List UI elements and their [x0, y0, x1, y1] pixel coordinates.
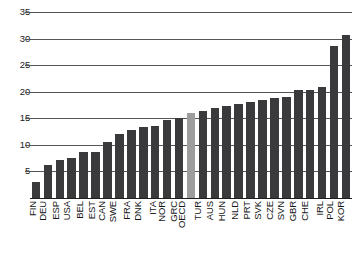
bar-esp	[56, 160, 65, 198]
bar-ita	[151, 126, 160, 198]
x-tick-label-esp: ESP	[50, 201, 60, 220]
bar-fin	[32, 182, 41, 198]
x-tick-label-hun: HUN	[217, 201, 227, 221]
x-tick-label-oecd: OECD	[177, 201, 187, 228]
x-tick-label-can: CAN	[98, 201, 108, 221]
bar-gbr	[294, 90, 303, 198]
bar-slot	[233, 12, 245, 198]
bar-can	[103, 142, 112, 198]
x-tick-label-gbr: GBR	[288, 201, 298, 221]
y-axis: 5101520253035	[0, 12, 30, 198]
bar-dnk	[139, 127, 148, 198]
x-tick-label-bel: BEL	[75, 201, 85, 219]
x-axis-labels: FINDEUESPUSABELESTCANSWEFRADNKITANORGRCO…	[30, 199, 352, 271]
x-tick-label-nld: NLD	[229, 201, 239, 220]
bar-chart-figure: 5101520253035 FINDEUESPUSABELESTCANSWEFR…	[0, 0, 360, 273]
bar-oecd	[187, 113, 196, 198]
bar-slot	[221, 12, 233, 198]
bar-cze	[270, 98, 279, 198]
x-tick-label-swe: SWE	[109, 201, 119, 222]
bar-slot	[42, 12, 54, 198]
x-tick-label-aus: AUS	[205, 201, 215, 220]
x-tick-label-cze: CZE	[265, 201, 275, 220]
bar-slot	[328, 12, 340, 198]
bar-svn	[282, 97, 291, 199]
bar-tur	[199, 111, 208, 198]
bar-slot	[137, 12, 149, 198]
bar-grc	[175, 118, 184, 198]
bar-slot	[185, 12, 197, 198]
bar-slot	[125, 12, 137, 198]
bar-slot	[161, 12, 173, 198]
bar-slot	[316, 12, 328, 198]
bar-slot	[292, 12, 304, 198]
bar-pol	[330, 46, 339, 198]
bar-nor	[163, 120, 172, 198]
bar-bel	[79, 152, 88, 198]
bar-irl	[318, 87, 327, 198]
bar-slot	[304, 12, 316, 198]
bar-fra	[127, 130, 136, 198]
bar-svk	[258, 100, 267, 198]
x-label-slot: KOR	[340, 199, 352, 271]
x-tick-label-prt: PRT	[241, 201, 251, 220]
x-tick-label-fra: FRA	[122, 201, 132, 220]
plot-area	[30, 12, 352, 198]
x-tick-label-usa: USA	[62, 201, 72, 220]
bar-che	[306, 90, 315, 198]
x-tick-label-svn: SVN	[277, 201, 287, 220]
bar-slot	[197, 12, 209, 198]
x-tick-label-svk: SVK	[253, 201, 263, 220]
bar-slot	[30, 12, 42, 198]
bar-slot	[280, 12, 292, 198]
x-tick-label-dnk: DNK	[133, 201, 143, 221]
x-tick-label-tur: TUR	[193, 201, 203, 220]
bar-slot	[66, 12, 78, 198]
bar-slot	[102, 12, 114, 198]
x-tick-label-che: CHE	[300, 201, 310, 221]
x-tick-label-pol: POL	[325, 201, 335, 220]
bar-slot	[54, 12, 66, 198]
bar-slot	[90, 12, 102, 198]
bar-aus	[211, 108, 220, 198]
bars-container	[30, 12, 352, 198]
bar-slot	[78, 12, 90, 198]
bar-slot	[245, 12, 257, 198]
bar-slot	[268, 12, 280, 198]
bar-kor	[342, 35, 351, 198]
bar-slot	[173, 12, 185, 198]
bar-slot	[113, 12, 125, 198]
bar-slot	[257, 12, 269, 198]
x-tick-label-deu: DEU	[38, 201, 48, 221]
bar-prt	[246, 102, 255, 198]
bar-swe	[115, 134, 124, 198]
bar-usa	[67, 158, 76, 198]
bar-slot	[340, 12, 352, 198]
bar-slot	[209, 12, 221, 198]
bar-hun	[222, 106, 231, 198]
x-tick-label-est: EST	[86, 201, 96, 219]
bar-nld	[234, 104, 243, 198]
bar-deu	[44, 165, 53, 198]
bar-slot	[149, 12, 161, 198]
x-tick-label-kor: KOR	[336, 201, 346, 221]
bar-est	[91, 152, 100, 198]
x-tick-label-nor: NOR	[157, 201, 167, 222]
